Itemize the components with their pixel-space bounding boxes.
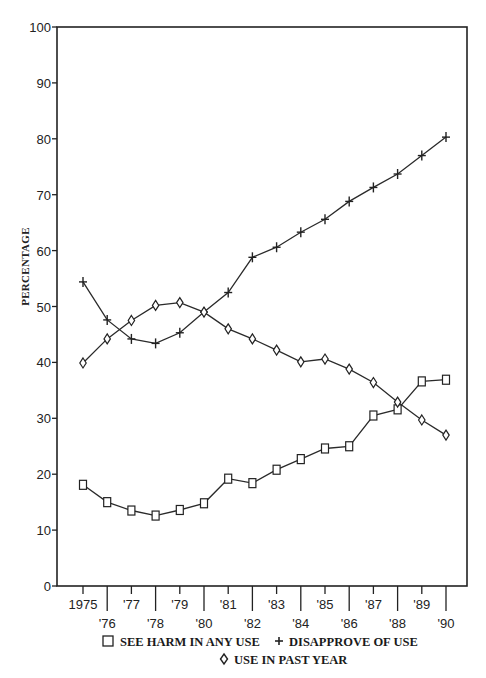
- square-marker-icon: [176, 505, 183, 514]
- x-tick-label: '86: [341, 616, 358, 631]
- legend-label: DISAPPROVE OF USE: [289, 635, 418, 649]
- square-marker-icon: [104, 498, 111, 507]
- diamond-marker-icon: [177, 298, 183, 308]
- x-tick-label: '76: [99, 616, 116, 631]
- diamond-marker-icon: [273, 345, 279, 355]
- square-marker-icon: [80, 480, 87, 489]
- series-layer: [79, 132, 450, 520]
- diamond-marker-icon: [370, 378, 376, 388]
- series-line: [83, 137, 446, 343]
- diamond-marker-icon: [322, 354, 328, 364]
- diamond-marker-icon: [419, 415, 425, 425]
- line-chart: PERCENTAGE 0102030405060708090100 1975'7…: [0, 0, 486, 678]
- x-axis-ticks: 1975'76'77'78'79'80'81'82'83'84'85'86'87…: [69, 586, 455, 631]
- y-tick-label: 40: [37, 355, 51, 370]
- series-see-harm-in-any-use: [80, 375, 450, 520]
- diamond-marker-icon: [443, 430, 449, 440]
- plus-marker-icon: [176, 328, 184, 338]
- x-tick-label: '84: [292, 616, 309, 631]
- y-tick-label: 70: [37, 188, 51, 203]
- x-tick-label: '80: [196, 616, 213, 631]
- square-marker-icon: [201, 499, 208, 508]
- series-line: [83, 380, 446, 516]
- y-tick-label: 10: [37, 523, 51, 538]
- diamond-marker-icon: [346, 364, 352, 374]
- x-tick-label: '87: [365, 597, 382, 612]
- plus-marker-icon: [345, 196, 353, 206]
- x-tick-label: '85: [317, 597, 334, 612]
- y-tick-label: 20: [37, 467, 51, 482]
- diamond-marker-icon: [201, 307, 207, 317]
- plus-marker-icon: [321, 214, 329, 224]
- square-marker-icon: [249, 479, 256, 488]
- square-marker-icon: [273, 465, 280, 474]
- legend: SEE HARM IN ANY USEDISAPPROVE OF USEUSE …: [103, 635, 418, 667]
- plus-marker-icon: [297, 227, 305, 237]
- legend-label: SEE HARM IN ANY USE: [120, 635, 260, 649]
- square-marker-icon: [152, 511, 159, 520]
- square-marker-icon: [225, 474, 232, 483]
- y-tick-label: 100: [29, 20, 51, 35]
- y-tick-label: 0: [44, 579, 51, 594]
- x-tick-label: 1975: [69, 597, 98, 612]
- diamond-marker-icon: [249, 334, 255, 344]
- y-tick-label: 50: [37, 300, 51, 315]
- x-tick-label: '83: [268, 597, 285, 612]
- y-tick-label: 60: [37, 244, 51, 259]
- square-marker-icon: [370, 411, 377, 420]
- legend-label: USE IN PAST YEAR: [234, 653, 348, 667]
- legend-diamond-icon: [221, 654, 228, 664]
- x-tick-label: '79: [171, 597, 188, 612]
- series-use-in-past-year: [80, 298, 449, 440]
- x-tick-label: '88: [389, 616, 406, 631]
- plus-marker-icon: [418, 151, 426, 161]
- x-tick-label: '81: [220, 597, 237, 612]
- y-axis-label: PERCENTAGE: [19, 227, 31, 306]
- plus-marker-icon: [369, 182, 377, 192]
- legend-plus-icon: [275, 637, 283, 645]
- y-tick-label: 80: [37, 132, 51, 147]
- diamond-marker-icon: [298, 357, 304, 367]
- y-tick-label: 90: [37, 76, 51, 91]
- square-marker-icon: [322, 444, 329, 453]
- diamond-marker-icon: [152, 300, 158, 310]
- square-marker-icon: [443, 375, 450, 384]
- diamond-marker-icon: [225, 324, 231, 334]
- plus-marker-icon: [273, 242, 281, 252]
- plus-marker-icon: [127, 334, 135, 344]
- legend-square-icon: [103, 636, 113, 646]
- diamond-marker-icon: [104, 334, 110, 344]
- square-marker-icon: [418, 377, 425, 386]
- y-tick-label: 30: [37, 411, 51, 426]
- x-tick-label: '82: [244, 616, 261, 631]
- plus-marker-icon: [442, 132, 450, 142]
- series-line: [83, 303, 446, 436]
- plot-frame: [57, 27, 467, 586]
- y-axis-title: PERCENTAGE: [19, 227, 31, 306]
- series-disapprove-of-use: [79, 132, 450, 348]
- x-tick-label: '90: [438, 616, 455, 631]
- square-marker-icon: [346, 442, 353, 451]
- diamond-marker-icon: [80, 358, 86, 368]
- square-marker-icon: [128, 506, 135, 515]
- y-axis-ticks: 0102030405060708090100: [29, 20, 57, 594]
- x-tick-label: '77: [123, 597, 140, 612]
- x-tick-label: '89: [413, 597, 430, 612]
- square-marker-icon: [297, 455, 304, 464]
- diamond-marker-icon: [128, 315, 134, 325]
- plus-marker-icon: [152, 338, 160, 348]
- x-tick-label: '78: [147, 616, 164, 631]
- plus-marker-icon: [394, 169, 402, 179]
